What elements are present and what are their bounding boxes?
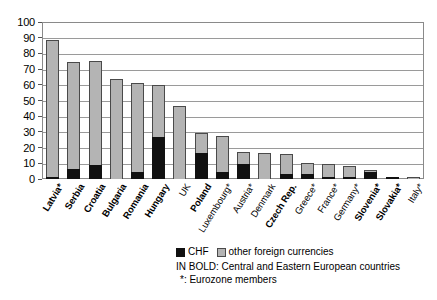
bar-stack[interactable]	[46, 22, 59, 179]
bar-stack[interactable]	[386, 22, 399, 179]
y-tick-label: 70	[23, 64, 35, 75]
x-axis-labels: Latvia*SerbiaCroatiaBulgariaRomaniaHunga…	[42, 180, 424, 250]
y-tick-label: 100	[17, 17, 35, 28]
bar-segment-chf[interactable]	[386, 177, 399, 179]
y-tick-label: 40	[23, 111, 35, 122]
bar-stack[interactable]	[258, 22, 271, 179]
bar-segment-other-foreign-currencies[interactable]	[343, 166, 356, 177]
chart-container: 0102030405060708090100 Latvia*SerbiaCroa…	[0, 0, 437, 300]
bar-stack[interactable]	[110, 22, 123, 179]
bar-stack[interactable]	[322, 22, 335, 179]
bar-segment-other-foreign-currencies[interactable]	[195, 133, 208, 153]
chart-legend: CHF other foreign currencies IN BOLD: Ce…	[176, 246, 434, 286]
bar-segment-chf[interactable]	[67, 169, 80, 179]
legend-note-bold: IN BOLD: Central and Eastern European co…	[176, 260, 434, 273]
bar-stack[interactable]	[237, 22, 250, 179]
bar-segment-chf[interactable]	[301, 174, 314, 179]
y-tick-label: 80	[23, 48, 35, 59]
legend-entries: CHF other foreign currencies	[176, 246, 434, 258]
bar-segment-chf[interactable]	[322, 177, 335, 179]
bar-segment-other-foreign-currencies[interactable]	[131, 83, 144, 172]
legend-swatch-other-foreign-currencies	[217, 248, 226, 257]
bar-stack[interactable]	[407, 22, 420, 179]
bar-segment-chf[interactable]	[216, 172, 229, 179]
y-tick-label: 90	[23, 32, 35, 43]
x-tick-label: Italy*	[406, 182, 425, 205]
x-tick-label: Latvia*	[40, 182, 65, 213]
bar-segment-other-foreign-currencies[interactable]	[216, 136, 229, 172]
bar-segment-other-foreign-currencies[interactable]	[258, 153, 271, 179]
bar-segment-other-foreign-currencies[interactable]	[110, 79, 123, 179]
bar-segment-other-foreign-currencies[interactable]	[322, 164, 335, 177]
bar-stack[interactable]	[67, 22, 80, 179]
bar-segment-chf[interactable]	[46, 177, 59, 179]
bar-segment-chf[interactable]	[131, 172, 144, 179]
bar-stack[interactable]	[195, 22, 208, 179]
y-tick-label: 20	[23, 142, 35, 153]
bar-segment-other-foreign-currencies[interactable]	[67, 62, 80, 169]
legend-swatch-chf	[176, 248, 185, 257]
bar-stack[interactable]	[364, 22, 377, 179]
y-tick-label: 10	[23, 158, 35, 169]
x-tick-label: UK	[177, 182, 192, 198]
y-tick-label: 60	[23, 79, 35, 90]
bar-segment-other-foreign-currencies[interactable]	[46, 40, 59, 177]
bar-segment-other-foreign-currencies[interactable]	[173, 106, 186, 179]
bar-stack[interactable]	[173, 22, 186, 179]
bar-segment-chf[interactable]	[237, 164, 250, 179]
bar-stack[interactable]	[301, 22, 314, 179]
bar-stack[interactable]	[89, 22, 102, 179]
bar-stack[interactable]	[280, 22, 293, 179]
bars-layer	[42, 22, 424, 179]
bar-segment-chf[interactable]	[280, 174, 293, 179]
y-tick-label: 0	[29, 174, 35, 185]
bar-segment-other-foreign-currencies[interactable]	[152, 85, 165, 137]
bar-stack[interactable]	[131, 22, 144, 179]
bar-segment-chf[interactable]	[152, 137, 165, 179]
bar-segment-chf[interactable]	[364, 172, 377, 179]
bar-segment-other-foreign-currencies[interactable]	[89, 61, 102, 165]
legend-label-other-foreign-currencies: other foreign currencies	[229, 246, 334, 258]
bar-segment-other-foreign-currencies[interactable]	[407, 177, 420, 179]
bar-stack[interactable]	[216, 22, 229, 179]
y-tick-label: 30	[23, 126, 35, 137]
bar-stack[interactable]	[343, 22, 356, 179]
bar-segment-other-foreign-currencies[interactable]	[280, 154, 293, 175]
bar-stack[interactable]	[152, 22, 165, 179]
y-tick-label: 50	[23, 95, 35, 106]
legend-note-star: *: Eurozone members	[176, 273, 434, 286]
legend-label-chf: CHF	[188, 246, 209, 258]
bar-segment-other-foreign-currencies[interactable]	[301, 163, 314, 174]
bar-segment-chf[interactable]	[343, 177, 356, 179]
bar-segment-chf[interactable]	[89, 165, 102, 179]
bar-segment-other-foreign-currencies[interactable]	[237, 152, 250, 165]
bar-segment-chf[interactable]	[195, 153, 208, 179]
y-axis: 0102030405060708090100	[0, 22, 42, 179]
